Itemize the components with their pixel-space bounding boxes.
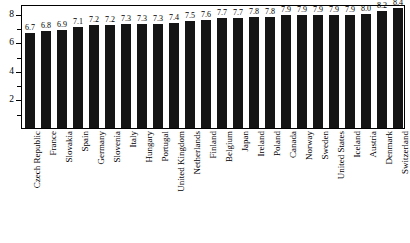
bar-value-label: 6.8	[41, 22, 51, 30]
x-axis-tick-label: Switzerland	[401, 131, 410, 174]
bar-column: 7.8	[249, 4, 259, 128]
x-axis-tick-label: United Kingdom	[177, 131, 186, 192]
bar-column: 7.5	[185, 4, 195, 128]
x-axis-tick-label: Czech Republic	[33, 131, 42, 188]
bar-column: 7.7	[217, 4, 227, 128]
bar-column: 7.9	[345, 4, 355, 128]
x-axis-tick-label: France	[49, 131, 58, 156]
y-axis-tick-label: 2	[9, 96, 14, 106]
bar	[73, 27, 83, 128]
bar-column: 7.6	[201, 4, 211, 128]
bar-value-label: 7.8	[249, 8, 259, 16]
bar-column: 6.7	[25, 4, 35, 128]
x-axis-tick-label: Spain	[81, 131, 90, 152]
bar-column: 7.2	[89, 4, 99, 128]
bar-value-label: 7.5	[185, 12, 195, 20]
bar	[265, 17, 275, 128]
bar-column: 7.9	[313, 4, 323, 128]
bar-value-label: 7.9	[281, 6, 291, 14]
bar	[281, 15, 291, 128]
x-axis-tick-label: Portugal	[161, 131, 170, 162]
x-axis-tick-label: Belgium	[225, 131, 234, 162]
bar	[169, 23, 179, 128]
x-axis-tick-label: Netherlands	[193, 131, 202, 174]
bar-column: 8.0	[361, 4, 371, 128]
bar	[89, 25, 99, 128]
bar-column: 7.3	[153, 4, 163, 128]
bar-value-label: 7.3	[137, 15, 147, 23]
bar-value-label: 7.8	[265, 8, 275, 16]
x-axis-tick-label: Austria	[369, 131, 378, 158]
bar	[313, 15, 323, 128]
y-axis-tick-label: 8	[9, 10, 14, 20]
x-axis-tick-label: Slovakia	[65, 131, 74, 163]
bar-column: 7.3	[137, 4, 147, 128]
bar-value-label: 7.3	[121, 15, 131, 23]
bar	[185, 21, 195, 128]
bar-value-label: 6.7	[25, 24, 35, 32]
bar	[41, 31, 51, 128]
x-axis-tick-label: Norway	[305, 131, 314, 160]
x-axis-tick-label: Germany	[97, 131, 106, 165]
bar	[25, 33, 35, 128]
bar	[329, 15, 339, 128]
bar-column: 7.3	[121, 4, 131, 128]
y-axis: 2468	[0, 0, 21, 130]
bar	[105, 25, 115, 128]
bar	[297, 15, 307, 128]
bar-column: 7.4	[169, 4, 179, 128]
bar	[201, 20, 211, 128]
bar-value-label: 7.9	[297, 6, 307, 14]
y-axis-tick-label: 4	[9, 67, 14, 77]
bar-value-label: 8.0	[361, 5, 371, 13]
plot-area: 6.76.86.97.17.27.27.37.37.37.47.57.67.77…	[21, 5, 405, 129]
bar	[249, 17, 259, 128]
x-axis-tick-label: Finland	[209, 131, 218, 159]
x-axis-tick-label: United States	[337, 131, 346, 179]
y-axis-tick-label: 6	[9, 39, 14, 49]
bar-value-label: 7.2	[105, 16, 115, 24]
bar-value-label: 7.6	[201, 11, 211, 19]
x-axis-tick-label: Denmark	[385, 131, 394, 165]
bar	[137, 24, 147, 128]
x-axis-tick-label: Iceland	[353, 131, 362, 157]
bar-column: 6.8	[41, 4, 51, 128]
bar	[217, 18, 227, 128]
x-axis-tick-label: Sweden	[321, 131, 330, 160]
bar-column: 7.9	[297, 4, 307, 128]
bar-value-label: 7.1	[73, 18, 83, 26]
bar	[57, 30, 67, 128]
bar-value-label: 7.9	[329, 6, 339, 14]
bar	[121, 24, 131, 128]
bar-column: 7.8	[265, 4, 275, 128]
x-axis-tick-label: Japan	[241, 131, 250, 152]
bar-value-label: 7.7	[217, 9, 227, 17]
bar-value-label: 6.9	[57, 21, 67, 29]
bar-column: 7.9	[281, 4, 291, 128]
bar-column: 7.1	[73, 4, 83, 128]
bar-column: 8.2	[377, 4, 387, 128]
bar-column: 7.7	[233, 4, 243, 128]
bar-value-label: 7.3	[153, 15, 163, 23]
bar-column: 7.9	[329, 4, 339, 128]
bar-value-label: 8.2	[377, 2, 387, 10]
x-axis-tick-label: Italy	[129, 131, 138, 148]
bar	[153, 24, 163, 128]
x-axis-tick-label: Ireland	[257, 131, 266, 156]
bar-column: 7.2	[105, 4, 115, 128]
x-axis-tick-label: Poland	[273, 131, 282, 156]
bar	[361, 14, 371, 128]
bar-value-label: 7.9	[313, 6, 323, 14]
bar	[393, 8, 403, 128]
bar	[233, 18, 243, 128]
bar-column: 8.4	[393, 4, 403, 128]
bar-value-label: 7.7	[233, 9, 243, 17]
bar-value-label: 7.9	[345, 6, 355, 14]
bar-column: 6.9	[57, 4, 67, 128]
bar	[345, 15, 355, 128]
x-axis-tick-label: Slovenia	[113, 131, 122, 163]
x-axis: Czech RepublicFranceSlovakiaSpainGermany…	[21, 129, 405, 243]
x-axis-tick-label: Hungary	[145, 131, 154, 163]
bar	[377, 11, 387, 128]
bar-value-label: 7.4	[169, 14, 179, 22]
